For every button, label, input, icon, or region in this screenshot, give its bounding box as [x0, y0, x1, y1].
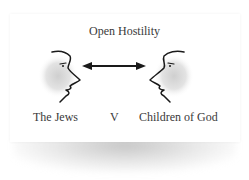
- face-profile-left-icon: [150, 51, 194, 102]
- right-label: Children of God: [139, 110, 218, 125]
- face-profile-right-icon: [38, 51, 80, 102]
- versus-label: V: [110, 110, 119, 125]
- double-arrow-icon: [82, 62, 146, 70]
- left-label: The Jews: [33, 110, 78, 125]
- diagram-graphic: [0, 0, 249, 180]
